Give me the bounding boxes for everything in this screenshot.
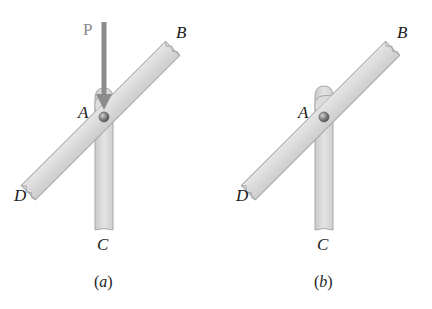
label-b: B	[176, 23, 187, 42]
label-d: D	[13, 186, 27, 205]
label-a: A	[77, 103, 89, 122]
force-label-p: P	[83, 20, 92, 39]
label-c: C	[97, 235, 109, 254]
figure-a: P A B D C (a)	[13, 20, 187, 291]
label-a: A	[297, 103, 309, 122]
label-b: B	[397, 23, 408, 42]
caption-b: (b)	[314, 273, 333, 291]
force-arrow-p	[96, 22, 112, 110]
label-d: D	[235, 186, 249, 205]
pin-a-icon	[319, 112, 329, 122]
diagram-canvas: P A B D C (a) A B D C (b)	[0, 0, 432, 309]
caption-a: (a)	[94, 273, 113, 291]
pin-a-icon	[99, 112, 109, 122]
figure-b: A B D C (b)	[235, 23, 408, 291]
label-c: C	[317, 235, 329, 254]
